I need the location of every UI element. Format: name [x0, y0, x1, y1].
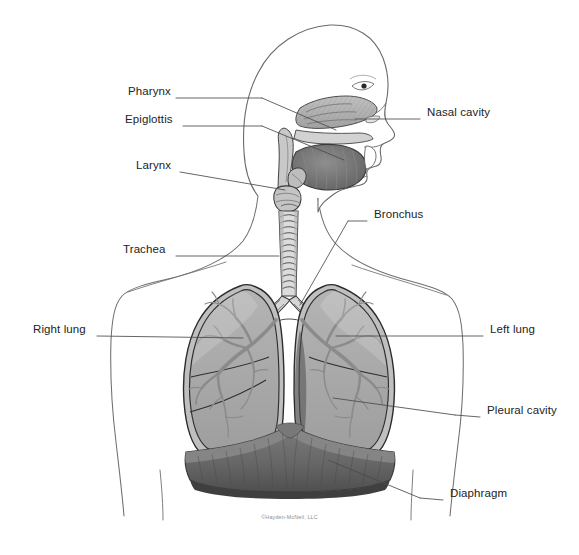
label-diaphragm[interactable]: Diaphragm: [450, 488, 507, 500]
copyright-credit: ©Hayden-McNeil, LLC: [0, 514, 579, 520]
label-left-lung[interactable]: Left lung: [490, 324, 535, 336]
leader-pleural-cavity: [455, 415, 480, 417]
leader-diaphragm: [420, 498, 443, 500]
label-right-lung[interactable]: Right lung: [33, 324, 86, 336]
trachea: [279, 211, 298, 296]
label-pleural-cavity[interactable]: Pleural cavity: [487, 405, 557, 417]
label-bronchus[interactable]: Bronchus: [374, 209, 423, 221]
label-nasal-cavity[interactable]: Nasal cavity: [427, 107, 490, 119]
label-trachea[interactable]: Trachea: [123, 244, 165, 256]
label-epiglottis[interactable]: Epiglottis: [125, 114, 173, 126]
anatomical-illustration: [0, 0, 579, 555]
respiratory-system-figure: Pharynx Epiglottis Larynx Trachea Right …: [0, 0, 579, 555]
right-lung: [184, 285, 284, 461]
label-larynx[interactable]: Larynx: [136, 160, 171, 172]
label-pharynx[interactable]: Pharynx: [128, 86, 171, 98]
larynx: [274, 186, 301, 212]
